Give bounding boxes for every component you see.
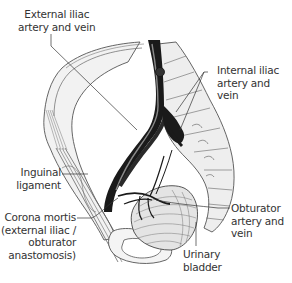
label-obturator: Obturator artery and vein (231, 202, 284, 240)
label-external-iliac-line1: External iliac (18, 8, 96, 21)
label-internal-iliac-line1: Internal iliac (217, 64, 279, 77)
label-obturator-line2: artery and (231, 215, 284, 228)
label-inguinal-line2: ligament (8, 179, 61, 192)
label-bladder-line1: Urinary (183, 248, 222, 261)
label-internal-iliac: Internal iliac artery and vein (217, 64, 279, 102)
label-corona-mortis-line4: anastomosis) (0, 249, 76, 262)
label-internal-iliac-line2: artery and (217, 77, 279, 90)
label-external-iliac-line2: artery and vein (18, 21, 96, 34)
label-inguinal-ligament: Inguinal ligament (8, 166, 61, 191)
label-obturator-line1: Obturator (231, 202, 284, 215)
label-urinary-bladder: Urinary bladder (183, 248, 222, 273)
label-external-iliac: External iliac artery and vein (18, 8, 96, 33)
label-corona-mortis-line3: obturator (0, 236, 76, 249)
label-internal-iliac-line3: vein (217, 89, 279, 102)
label-corona-mortis-line1: Corona mortis (0, 211, 76, 224)
pelvis-diagram: External iliac artery and vein Internal … (0, 0, 292, 283)
label-corona-mortis: Corona mortis (external iliac / obturato… (0, 211, 76, 261)
iliac-bifurcation-node (156, 68, 165, 77)
label-bladder-line2: bladder (183, 261, 222, 274)
label-inguinal-line1: Inguinal (8, 166, 61, 179)
label-corona-mortis-line2: (external iliac / (0, 224, 76, 237)
label-obturator-line3: vein (231, 227, 284, 240)
